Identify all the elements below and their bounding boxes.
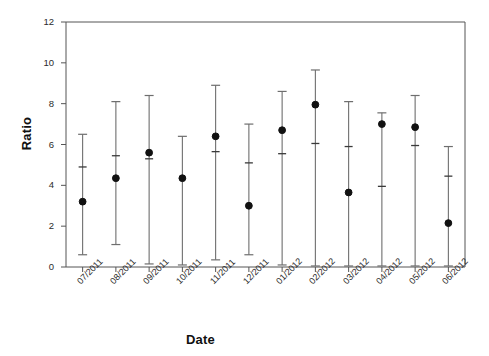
- y-axis-tick-label: 10: [32, 57, 54, 68]
- data-point-group: [344, 102, 353, 266]
- axis-frame: [66, 22, 465, 267]
- data-point-marker: [112, 175, 119, 182]
- data-point-marker: [79, 198, 86, 205]
- data-point-marker: [378, 121, 385, 128]
- y-axis-title: Ratio: [19, 104, 34, 164]
- data-point-group: [145, 96, 154, 264]
- data-point-group: [411, 96, 420, 266]
- data-point-marker: [212, 133, 219, 140]
- data-point-marker: [146, 149, 153, 156]
- data-point-marker: [279, 127, 286, 134]
- data-point-group: [377, 113, 386, 266]
- data-point-group: [211, 85, 220, 260]
- data-point-group: [244, 124, 253, 255]
- data-point-marker: [179, 175, 186, 182]
- data-point-group: [178, 136, 187, 265]
- data-point-marker: [412, 124, 419, 131]
- data-point-marker: [445, 220, 452, 227]
- data-point-group: [311, 70, 320, 266]
- data-point-group: [111, 102, 120, 245]
- data-point-marker: [245, 202, 252, 209]
- data-point-group: [78, 134, 87, 254]
- y-axis-tick-label: 4: [32, 179, 54, 190]
- x-axis-title: Date: [186, 332, 215, 347]
- y-axis-tick-label: 8: [32, 98, 54, 109]
- y-axis-tick-label: 12: [32, 16, 54, 27]
- y-axis-tick-label: 6: [32, 139, 54, 150]
- y-axis-tick-label: 0: [32, 261, 54, 272]
- y-axis-tick-label: 2: [32, 220, 54, 231]
- chart-figure: Ratio Date 024681012 07/201108/201109/20…: [0, 0, 489, 356]
- plot-area: [0, 0, 489, 356]
- data-point-group: [444, 147, 453, 266]
- data-point-marker: [312, 101, 319, 108]
- data-point-group: [278, 91, 287, 265]
- data-point-marker: [345, 189, 352, 196]
